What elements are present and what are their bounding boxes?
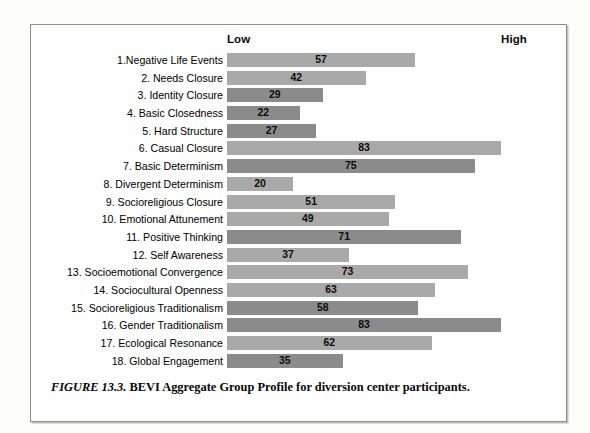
bar-track: 49	[227, 212, 389, 226]
bar-row: 3. Identity Closure29	[31, 87, 568, 105]
bar-value-label: 71	[227, 230, 461, 244]
bar-track: 35	[227, 354, 343, 368]
bar: 42	[227, 71, 366, 85]
bar-row: 6. Casual Closure83	[31, 140, 568, 158]
bar: 51	[227, 195, 395, 209]
bar: 75	[227, 159, 475, 173]
bar-value-label: 49	[227, 212, 389, 226]
bar-row: 9. Socioreligious Closure51	[31, 194, 568, 212]
bar-value-label: 57	[227, 53, 415, 67]
bar-track: 22	[227, 106, 300, 120]
axis-label-high: High	[501, 33, 527, 45]
bar-row: 7. Basic Determinism75	[31, 158, 568, 176]
bar-value-label: 75	[227, 159, 475, 173]
bar-row-label: 3. Identity Closure	[0, 88, 223, 102]
bar-value-label: 22	[227, 106, 300, 120]
bar: 22	[227, 106, 300, 120]
bar: 83	[227, 318, 501, 332]
bar-row-label: 8. Divergent Determinism	[0, 177, 223, 191]
bar-row-label: 10. Emotional Attunement	[0, 212, 223, 226]
bar-row: 14. Sociocultural Openness63	[31, 282, 568, 300]
bar-track: 58	[227, 301, 418, 315]
bevi-profile-chart: Low High 1.Negative Life Events572. Need…	[31, 25, 568, 370]
figure-caption: FIGURE 13.3. BEVI Aggregate Group Profil…	[51, 380, 551, 395]
bar: 63	[227, 283, 435, 297]
bar-row: 15. Socioreligious Traditionalism58	[31, 300, 568, 318]
bar: 83	[227, 141, 501, 155]
bar-row-label: 7. Basic Determinism	[0, 159, 223, 173]
bar-value-label: 20	[227, 177, 293, 191]
bar-track: 29	[227, 88, 323, 102]
bar-value-label: 29	[227, 88, 323, 102]
bar-rows: 1.Negative Life Events572. Needs Closure…	[31, 52, 568, 370]
bar-track: 57	[227, 53, 415, 67]
caption-number: FIGURE 13.3.	[51, 380, 126, 394]
bar-track: 73	[227, 265, 468, 279]
bar-track: 83	[227, 141, 501, 155]
bar-track: 42	[227, 71, 366, 85]
figure-frame: Low High 1.Negative Life Events572. Need…	[30, 24, 567, 422]
bar: 73	[227, 265, 468, 279]
bar-row-label: 6. Casual Closure	[0, 141, 223, 155]
bar-row: 16. Gender Traditionalism83	[31, 317, 568, 335]
bar: 71	[227, 230, 461, 244]
bar-row: 10. Emotional Attunement49	[31, 211, 568, 229]
bar-track: 75	[227, 159, 475, 173]
bar-value-label: 42	[227, 71, 366, 85]
bar-value-label: 63	[227, 283, 435, 297]
bar-row: 12. Self Awareness37	[31, 247, 568, 265]
bar-value-label: 51	[227, 195, 395, 209]
bar-value-label: 83	[227, 318, 501, 332]
bar-value-label: 83	[227, 141, 501, 155]
bar-track: 51	[227, 195, 395, 209]
bar-row: 17. Ecological Resonance62	[31, 335, 568, 353]
bar-row: 1.Negative Life Events57	[31, 52, 568, 70]
bar-track: 71	[227, 230, 461, 244]
bar-row-label: 13. Socioemotional Convergence	[0, 265, 223, 279]
bar: 29	[227, 88, 323, 102]
axis-header: Low High	[31, 33, 568, 51]
bar-row: 13. Socioemotional Convergence73	[31, 264, 568, 282]
bar-row: 4. Basic Closedness22	[31, 105, 568, 123]
bar: 27	[227, 124, 316, 138]
bar-row: 2. Needs Closure42	[31, 70, 568, 88]
bar-row: 8. Divergent Determinism20	[31, 176, 568, 194]
bar: 58	[227, 301, 418, 315]
bar-track: 27	[227, 124, 316, 138]
bar: 62	[227, 336, 432, 350]
bar-row-label: 5. Hard Structure	[0, 124, 223, 138]
bar-row-label: 14. Sociocultural Openness	[0, 283, 223, 297]
bar: 35	[227, 354, 343, 368]
bar-row-label: 2. Needs Closure	[0, 71, 223, 85]
bar-row-label: 17. Ecological Resonance	[0, 336, 223, 350]
bar-row: 18. Global Engagement35	[31, 353, 568, 371]
bar-value-label: 58	[227, 301, 418, 315]
bar-row-label: 4. Basic Closedness	[0, 106, 223, 120]
axis-label-low: Low	[227, 33, 250, 45]
bar-value-label: 27	[227, 124, 316, 138]
bar: 37	[227, 248, 349, 262]
bar-track: 83	[227, 318, 501, 332]
bar-value-label: 35	[227, 354, 343, 368]
bar-track: 37	[227, 248, 349, 262]
bar-track: 63	[227, 283, 435, 297]
bar-row-label: 18. Global Engagement	[0, 354, 223, 368]
bar-row-label: 9. Socioreligious Closure	[0, 195, 223, 209]
bar-row: 11. Positive Thinking71	[31, 229, 568, 247]
bar-value-label: 62	[227, 336, 432, 350]
bar-track: 20	[227, 177, 293, 191]
bar-row-label: 16. Gender Traditionalism	[0, 318, 223, 332]
bar-row-label: 11. Positive Thinking	[0, 230, 223, 244]
bar: 20	[227, 177, 293, 191]
bar-value-label: 73	[227, 265, 468, 279]
bar-row-label: 15. Socioreligious Traditionalism	[0, 301, 223, 315]
bar-value-label: 37	[227, 248, 349, 262]
bar-track: 62	[227, 336, 432, 350]
bar-row-label: 1.Negative Life Events	[0, 53, 223, 67]
bar-row: 5. Hard Structure27	[31, 123, 568, 141]
bar-row-label: 12. Self Awareness	[0, 248, 223, 262]
bar: 49	[227, 212, 389, 226]
bar: 57	[227, 53, 415, 67]
caption-text: BEVI Aggregate Group Profile for diversi…	[130, 380, 470, 394]
